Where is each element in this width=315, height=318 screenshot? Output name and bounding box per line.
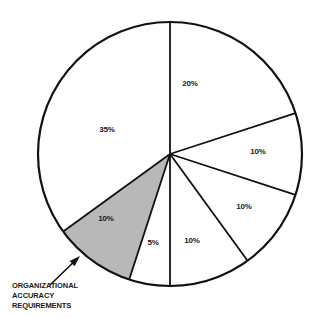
pie-slice-label: 5% <box>147 238 158 247</box>
callout-text-line: REQUIREMENTS <box>12 301 71 310</box>
pie-slice-label: 10% <box>184 236 199 245</box>
pie-slice-label: 10% <box>236 202 251 211</box>
pie-slice-label: 35% <box>99 125 114 134</box>
pie-slice-label: 20% <box>182 79 197 88</box>
pie-annotations-group: ORGANIZATIONALACCURACYREQUIREMENTS <box>12 256 80 310</box>
callout-text-line: ORGANIZATIONAL <box>12 281 78 290</box>
pie-slice-label: 10% <box>250 147 265 156</box>
callout-text-line: ACCURACY <box>12 291 54 300</box>
pie-chart-svg: 20%10%10%10%5%10%35% ORGANIZATIONALACCUR… <box>0 0 315 318</box>
pie-slice-label: 10% <box>98 214 113 223</box>
pie-chart-figure: 20%10%10%10%5%10%35% ORGANIZATIONALACCUR… <box>0 0 315 318</box>
